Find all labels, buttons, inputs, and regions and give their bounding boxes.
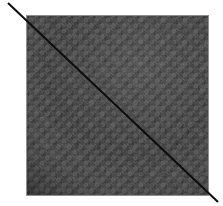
figure-canvas: textured-square-with-diagonal A dark gra… bbox=[0, 0, 223, 206]
figure-svg: textured-square-with-diagonal A dark gra… bbox=[0, 0, 223, 206]
